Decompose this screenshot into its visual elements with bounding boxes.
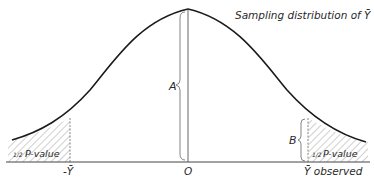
label-b: B [289,134,297,147]
label-zero: O [184,165,192,177]
brace-b [298,119,305,161]
label-half-right-pvalue: P-value [323,148,358,159]
brace-a [176,12,185,160]
sampling-distribution-diagram: Sampling distribution of Ȳ A B 1/2 P-val… [0,0,374,180]
label-half-left-pvalue: P-value [25,148,60,159]
label-a: A [168,80,177,93]
label-half-left-fraction: 1/2 [13,151,23,158]
chart-title: Sampling distribution of Ȳ [235,9,372,21]
label-neg-ybar: -Ȳ [63,165,75,177]
label-ybar-observed: Ȳ observed [304,165,363,177]
label-half-right-fraction: 1/2 [312,151,322,158]
